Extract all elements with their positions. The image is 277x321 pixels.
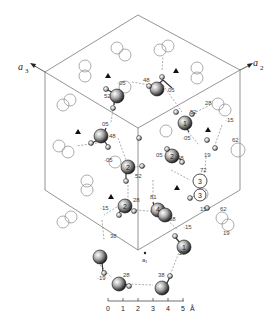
svg-text:3: 3 — [198, 178, 202, 185]
svg-text:38: 38 — [169, 216, 176, 222]
atom-38b — [155, 281, 169, 295]
svg-text:72: 72 — [200, 167, 207, 173]
svg-text:05: 05 — [168, 87, 175, 93]
open-molecules — [53, 40, 245, 231]
svg-text:05: 05 — [156, 152, 163, 158]
svg-text:15: 15 — [200, 206, 207, 212]
axis-a2: a 2 — [240, 57, 264, 72]
svg-text:2: 2 — [136, 305, 140, 312]
svg-text:5: 5 — [181, 305, 185, 312]
svg-text:19: 19 — [204, 152, 211, 158]
atom-o-52 — [110, 89, 124, 103]
svg-text:48: 48 — [143, 77, 150, 83]
svg-text:28: 28 — [179, 250, 186, 256]
svg-text:2: 2 — [123, 203, 127, 210]
svg-text:1: 1 — [121, 305, 125, 312]
svg-text:2: 2 — [260, 64, 264, 72]
svg-text:05: 05 — [102, 121, 109, 127]
axis-a3: a 3 — [18, 61, 45, 75]
svg-text:·15: ·15 — [100, 205, 109, 211]
svg-text:·05: ·05 — [117, 80, 126, 86]
svg-text:1: 1 — [183, 120, 187, 127]
svg-text:48: 48 — [109, 133, 116, 139]
svg-text:·15: ·15 — [225, 117, 234, 123]
svg-text:28: 28 — [205, 100, 212, 106]
svg-text:2: 2 — [126, 164, 130, 171]
height-labels: ·05 52 48 05 52 28 ·15 05 48 ·05 52 ·05 … — [97, 77, 239, 281]
svg-text:a: a — [18, 61, 23, 72]
hexagon-outline — [45, 15, 240, 250]
svg-text:a: a — [253, 57, 258, 68]
svg-text:38: 38 — [158, 272, 165, 278]
svg-text:52: 52 — [190, 109, 197, 115]
svg-text:48: 48 — [177, 155, 184, 161]
svg-text:62: 62 — [220, 206, 227, 212]
atom-o-48 — [150, 82, 164, 96]
atom-28 — [112, 277, 126, 291]
svg-text:81: 81 — [150, 194, 157, 200]
svg-text:52: 52 — [135, 173, 142, 179]
svg-text:4: 4 — [156, 206, 160, 213]
crystal-structure-diagram: a 3 a 2 — [0, 0, 277, 321]
svg-text:38: 38 — [110, 233, 117, 239]
svg-text:2: 2 — [170, 153, 174, 160]
atom-38a — [93, 250, 107, 264]
svg-text:28: 28 — [133, 197, 140, 203]
svg-text:3: 3 — [198, 192, 202, 199]
svg-text:3: 3 — [151, 305, 155, 312]
atom-o-48b — [94, 129, 108, 143]
svg-text:52: 52 — [104, 93, 111, 99]
svg-text:Å: Å — [190, 304, 195, 312]
svg-text:·05: ·05 — [182, 135, 191, 141]
axis-a1-marker: a₁ — [142, 252, 147, 263]
svg-text:·05: ·05 — [104, 157, 113, 163]
svg-text:3: 3 — [25, 67, 29, 75]
scale-bar: 0 1 2 3 4 5 Å — [106, 298, 195, 312]
svg-text:·15: ·15 — [183, 224, 192, 230]
svg-text:0: 0 — [106, 305, 110, 312]
svg-text:19: 19 — [223, 230, 230, 236]
svg-text:·19: ·19 — [97, 275, 106, 281]
svg-text:4: 4 — [166, 305, 170, 312]
svg-text:a₁: a₁ — [142, 257, 147, 263]
svg-text:62: 62 — [232, 137, 239, 143]
svg-text:28: 28 — [123, 272, 130, 278]
